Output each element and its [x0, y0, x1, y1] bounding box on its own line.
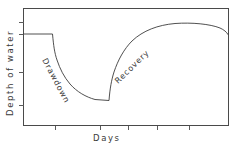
hydrograph-figure: Depth of water Days Drawdown Recovery: [0, 0, 241, 149]
annotation-drawdown: Drawdown: [40, 57, 71, 105]
x-axis-ticks: [56, 126, 190, 131]
hydrograph-curve: [24, 23, 229, 100]
chart-canvas: Depth of water Days Drawdown Recovery: [0, 0, 241, 149]
y-axis-label: Depth of water: [5, 30, 15, 116]
y-axis-ticks: [19, 23, 24, 106]
x-axis-label: Days: [93, 133, 121, 143]
annotation-recovery: Recovery: [113, 48, 151, 85]
